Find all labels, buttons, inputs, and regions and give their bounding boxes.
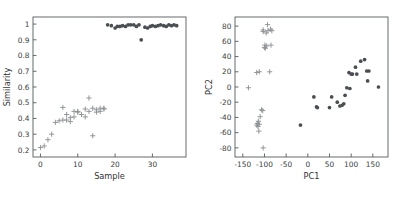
data-point-circle [355,72,359,76]
y-axis-tick-label: 0.7 [18,67,30,76]
x-axis-tick-label: 30 [148,160,158,169]
x-axis-tick-label: -150 [234,160,251,169]
data-point-circle [351,72,355,76]
data-point-circle [363,58,367,62]
y-axis-tick-label: 0.9 [18,36,30,45]
y-axis-tick-label: 0 [227,83,232,92]
data-point-circle [110,24,114,28]
data-point-plus [86,95,91,100]
data-point-plus [258,114,263,119]
data-point-circle [359,59,363,63]
data-point-plus [256,129,261,134]
y-axis-tick-label: -20 [219,98,231,107]
x-axis-tick-label: 20 [110,160,120,169]
panel-similarity-scatter: 01020300.20.30.40.50.60.70.80.91SampleSi… [0,0,200,200]
x-axis-tick-label: 0 [305,160,310,169]
data-point-circle [348,87,352,91]
data-point-plus [101,106,106,111]
data-point-circle [367,69,371,73]
y-axis-tick-label: 40 [222,52,232,61]
data-point-plus [268,43,273,48]
x-axis-tick-label: 50 [325,160,335,169]
y-axis-tick-label: 0.4 [18,114,30,123]
data-point-plus [83,114,88,119]
y-axis-tick-label: 0.5 [18,98,30,107]
y-axis-tick-label: 60 [222,37,232,46]
pca-plot-svg: -150-100-50050100150-80-60-40-2002040608… [199,0,399,200]
x-axis-title: PC1 [304,171,320,181]
x-axis-tick-label: 10 [73,160,83,169]
data-point-circle [342,102,346,106]
x-axis-tick-label: -100 [256,160,273,169]
data-point-plus [260,108,265,113]
data-point-plus [259,107,264,112]
data-point-plus [75,110,80,115]
y-axis-title: Similarity [2,67,12,106]
data-point-circle [312,95,316,99]
plot-frame [235,17,388,157]
y-axis-tick-label: -40 [219,113,231,122]
data-point-plus [49,132,54,137]
x-axis-tick-label: 150 [366,160,380,169]
series-group-a [246,22,275,150]
data-point-circle [330,95,334,99]
data-point-plus [83,106,88,111]
data-point-circle [137,23,141,27]
plot-frame [33,17,186,157]
data-point-circle [366,79,370,83]
data-point-plus [64,112,69,117]
data-point-plus [60,105,65,110]
y-axis-tick-label: 20 [222,67,232,76]
data-point-plus [90,133,95,138]
series-group-b [299,58,381,127]
data-point-circle [335,100,339,104]
data-point-circle [354,65,358,69]
data-point-circle [328,106,332,110]
y-axis-tick-label: -60 [219,128,231,137]
y-axis-tick-label: 0.2 [18,146,30,155]
x-axis-tick-label: -50 [280,160,292,169]
data-point-circle [299,123,303,127]
y-axis-tick-label: -80 [219,144,231,153]
y-axis-tick-label: 1 [25,20,30,29]
data-point-plus [257,69,262,74]
data-point-plus [246,85,251,90]
data-point-plus [86,109,91,114]
y-axis-tick-label: 0.8 [18,51,30,60]
y-axis-tick-label: 80 [222,22,232,31]
data-point-plus [254,70,259,75]
figure-scatter-pair: 01020300.20.30.40.50.60.70.80.91SampleSi… [0,0,399,200]
data-point-circle [316,106,320,110]
panel-pca-scatter: -150-100-50050100150-80-60-40-2002040608… [199,0,399,200]
data-point-circle [343,94,347,98]
x-axis-tick-label: 100 [344,160,358,169]
data-point-circle [175,24,179,28]
y-axis-tick-label: 0.3 [18,130,30,139]
data-point-plus [79,112,84,117]
data-point-circle [377,85,381,89]
y-axis-title: PC2 [204,79,214,95]
similarity-plot-svg: 01020300.20.30.40.50.60.70.80.91SampleSi… [0,0,200,200]
x-axis-tick-label: 0 [38,160,43,169]
series-high-similarity-group [106,23,179,42]
data-point-plus [267,69,272,74]
data-point-plus [71,114,76,119]
data-point-plus [45,137,50,142]
y-axis-tick-label: 0.6 [18,83,30,92]
series-low-similarity-group [38,95,107,150]
data-point-plus [261,145,266,150]
data-point-circle [139,38,143,42]
data-point-circle [106,23,110,27]
data-point-plus [265,22,270,27]
x-axis-title: Sample [94,171,125,181]
